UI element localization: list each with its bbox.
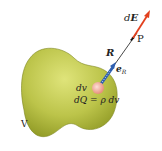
field-element-label: dE <box>124 12 138 23</box>
charge-element-label: dQ = ρ dv <box>74 95 119 105</box>
volume-element-label: dv <box>76 83 87 93</box>
diagram-canvas: dE P R eR dv dQ = ρ dv V <box>0 0 162 151</box>
field-point-label: P <box>137 33 144 44</box>
unit-vector-label: eR <box>116 64 127 75</box>
volume-charge-field-diagram: dE P R eR dv dQ = ρ dv V <box>0 0 162 151</box>
volume-region <box>22 48 118 136</box>
charge-element <box>92 82 104 94</box>
volume-label: V <box>20 119 28 129</box>
distance-vector-label: R <box>105 47 114 58</box>
